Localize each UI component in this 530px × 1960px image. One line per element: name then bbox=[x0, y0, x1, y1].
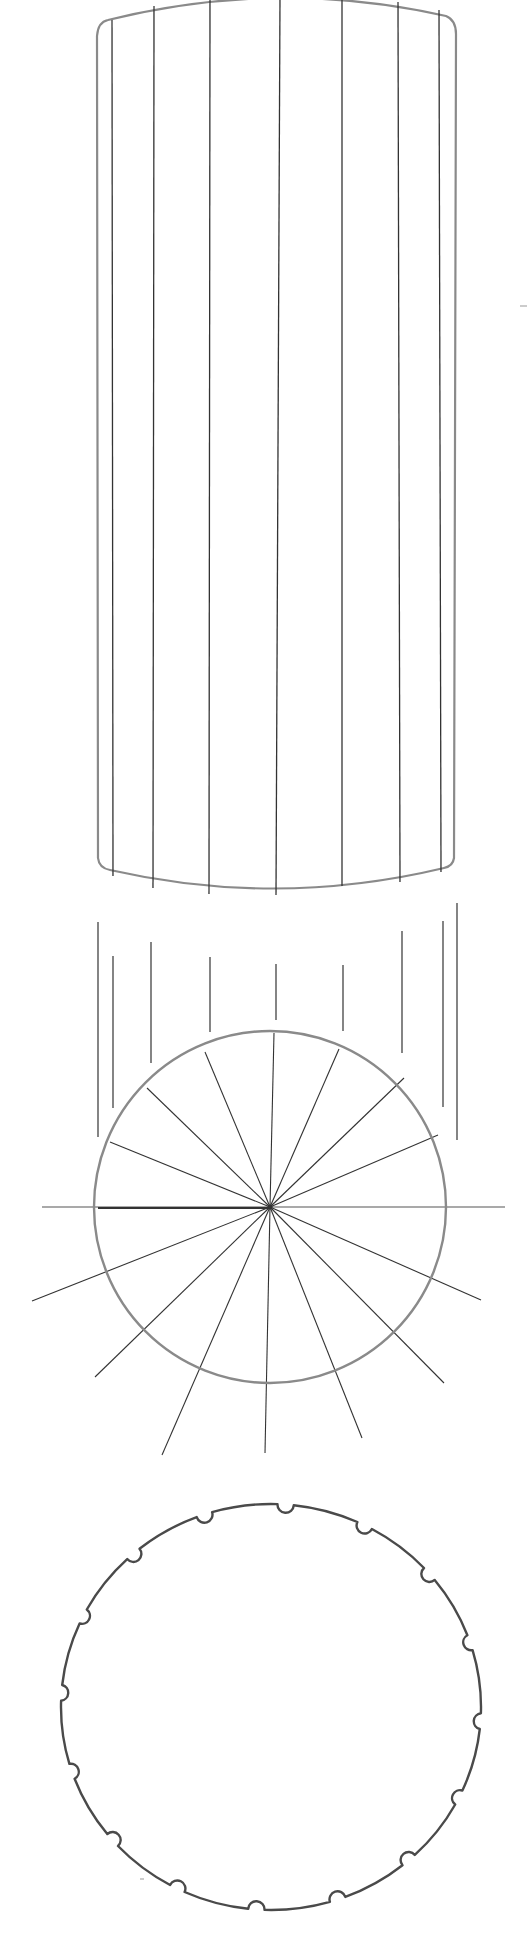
paper-background bbox=[0, 0, 530, 1960]
sketch-canvas bbox=[0, 0, 530, 1960]
